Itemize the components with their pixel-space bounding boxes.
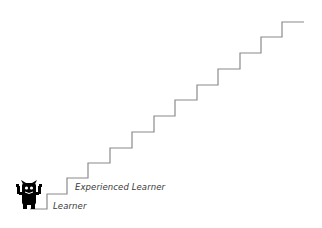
staircase-line (30, 22, 304, 209)
staircase-svg (0, 0, 322, 228)
staircase-diagram: Experienced Learner Learner (0, 0, 322, 228)
learner-label: Learner (53, 201, 86, 211)
monster-icon (16, 180, 42, 209)
experienced-learner-label: Experienced Learner (75, 182, 165, 192)
